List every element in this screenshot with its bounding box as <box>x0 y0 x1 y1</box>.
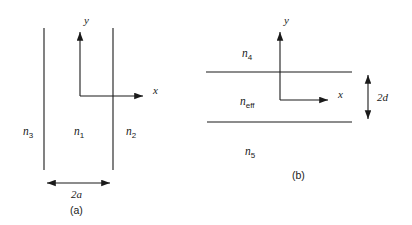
panel-b-region-bottom-label: n5 <box>245 145 256 160</box>
panel-b: y x n4 neff n5 2d (b) <box>206 14 389 181</box>
panel-a-region-center-label: n1 <box>74 125 85 140</box>
panel-a: y x n3 n1 n2 2a (a) <box>23 14 158 216</box>
panel-a-y-axis-label: y <box>83 14 89 26</box>
figure-container: y x n3 n1 n2 2a (a) y x n4 neff n5 2d (b… <box>0 0 412 225</box>
panel-a-region-right-subscript: 2 <box>132 131 137 140</box>
panel-a-region-left-label: n3 <box>23 125 34 140</box>
panel-b-region-middle-subscript: eff <box>246 101 256 110</box>
panel-a-caption: (a) <box>70 204 83 216</box>
panel-a-dimension-label: 2a <box>71 188 83 200</box>
panel-b-y-axis-label: y <box>283 14 289 26</box>
waveguide-cross-section-diagram: y x n3 n1 n2 2a (a) y x n4 neff n5 2d (b… <box>0 0 412 225</box>
panel-b-dimension-label: 2d <box>377 91 389 103</box>
panel-b-region-middle-label: neff <box>240 95 255 110</box>
panel-a-region-left-subscript: 3 <box>29 131 34 140</box>
panel-b-region-top-label: n4 <box>242 47 253 62</box>
panel-a-region-right-label: n2 <box>126 125 137 140</box>
panel-b-x-axis-label: x <box>337 88 343 100</box>
panel-b-region-top-subscript: 4 <box>248 53 253 62</box>
panel-b-caption: (b) <box>292 169 305 181</box>
panel-a-x-axis-label: x <box>152 84 158 96</box>
panel-a-region-center-subscript: 1 <box>80 131 85 140</box>
panel-b-region-bottom-subscript: 5 <box>251 151 256 160</box>
